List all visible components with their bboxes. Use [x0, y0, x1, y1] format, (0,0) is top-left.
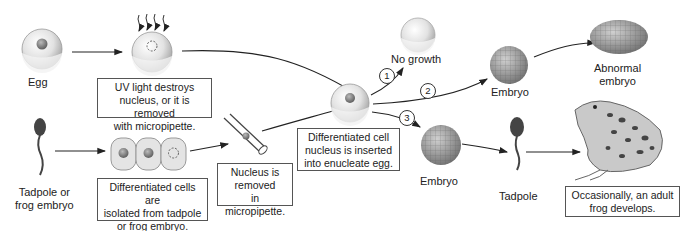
label-tadpole-or-frog-embryo: Tadpole or frog embryo	[15, 186, 74, 212]
enucleated-egg-icon	[132, 32, 172, 76]
box-differentiated-isolated: Differentiated cells are isolated from t…	[97, 178, 208, 221]
box-nucleus-removed: Nucleus is removed in micropipette.	[217, 163, 293, 206]
box-line: frog develops.	[569, 202, 676, 215]
arrow-to-abnormal	[534, 43, 595, 57]
box-line: isolated from tadpole	[101, 207, 204, 220]
embryo-upper-icon	[490, 46, 528, 84]
label-line: Tadpole or	[15, 186, 74, 199]
outcome-number-3: 3	[399, 110, 415, 126]
box-line: or frog embryo.	[101, 220, 204, 231]
label-no-growth: No growth	[391, 53, 441, 66]
label-embryo-upper: Embryo	[491, 86, 529, 99]
adult-frog-icon	[575, 101, 662, 180]
tadpole-right-icon	[510, 117, 524, 170]
box-line: into enucleate egg.	[301, 157, 396, 170]
label-egg: Egg	[28, 76, 48, 89]
label-abnormal-embryo: Abnormal embryo	[594, 62, 641, 88]
embryo-lower-icon	[421, 125, 461, 165]
label-line: frog embryo	[15, 199, 74, 212]
box-line: Occasionally, an adult	[569, 189, 676, 202]
differentiated-cells-icon	[111, 138, 186, 170]
box-line: in micropipette.	[221, 192, 289, 218]
label-embryo-lower: Embryo	[420, 175, 458, 188]
box-line: Differentiated cell	[301, 131, 396, 144]
box-uv-light: UV light destroys nucleus, or it is remo…	[97, 78, 212, 118]
box-line: nucleus is inserted	[301, 144, 396, 157]
box-line: Nucleus is	[221, 166, 289, 179]
label-line: Abnormal	[594, 62, 641, 75]
egg-cell-icon	[22, 29, 62, 73]
abnormal-embryo-icon	[590, 20, 648, 54]
box-line: removed	[221, 179, 289, 192]
box-line: Differentiated cells are	[101, 181, 204, 207]
arrow-embryo-to-tadpole	[462, 144, 507, 152]
box-line: UV light destroys	[101, 81, 208, 94]
box-line: with micropipette.	[101, 120, 208, 133]
micropipette-icon	[224, 114, 269, 156]
tadpole-icon	[34, 118, 46, 175]
label-tadpole: Tadpole	[499, 190, 538, 203]
label-line: embryo	[594, 75, 641, 88]
box-line: nucleus, or it is removed	[101, 94, 208, 120]
outcome-number-2: 2	[420, 83, 436, 99]
recipient-egg-icon	[331, 84, 369, 126]
box-nucleus-inserted: Differentiated cell nucleus is inserted …	[297, 128, 400, 171]
arrow-cells-to-pipette	[190, 144, 228, 151]
no-growth-egg-icon	[401, 18, 435, 55]
uv-arrows-icon	[138, 14, 165, 31]
outcome-number-1: 1	[379, 68, 395, 84]
box-adult-frog: Occasionally, an adult frog develops.	[565, 186, 680, 217]
